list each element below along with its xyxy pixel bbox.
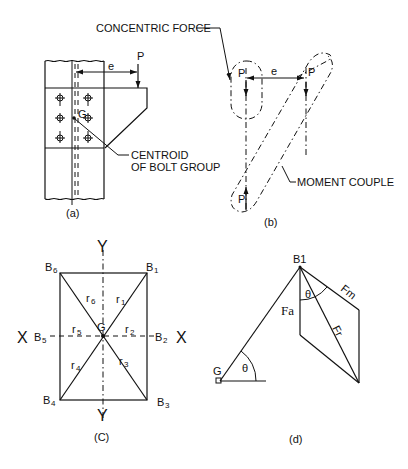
centroid-label: G <box>78 108 87 120</box>
centroid-dot-c <box>101 334 105 338</box>
centroid-callout-line1: CENTROID <box>131 149 189 161</box>
eccentricity-label-b: e <box>271 65 277 77</box>
caption-c: (C) <box>94 431 109 443</box>
force-label-right: P <box>308 66 315 78</box>
svg-text:6: 6 <box>91 297 96 306</box>
load-label: P <box>137 50 144 62</box>
bolt-label-b4: B4 <box>43 394 56 408</box>
eccentricity-label: e <box>108 60 114 72</box>
force-label-bottom: P <box>238 193 245 205</box>
svg-text:4: 4 <box>76 364 81 373</box>
angle-label-b1: θ <box>305 288 311 300</box>
svg-text:r: r <box>71 359 75 371</box>
bolt-label-b3: B3 <box>157 396 170 410</box>
panel-c: G Y Y X X B6 B1 B5 B2 B4 B3 r1 r2 r3 r4 … <box>17 238 187 443</box>
axis-x-right: X <box>176 329 187 346</box>
force-label-fr: Fr <box>330 323 346 338</box>
svg-text:r: r <box>116 293 120 305</box>
svg-text:3: 3 <box>165 401 170 410</box>
caption-b: (b) <box>264 216 277 228</box>
bolt-label-b1: B1 <box>146 261 159 275</box>
svg-text:B: B <box>34 331 41 343</box>
panel-d: G θ B1 θ Fa Fm Fr (d) <box>213 253 359 445</box>
concentric-force-leader <box>196 28 230 80</box>
bolt-hole-icon <box>55 113 65 123</box>
svg-text:5: 5 <box>77 328 82 337</box>
force-label-fm: Fm <box>339 282 359 301</box>
radius-label-r4: r4 <box>71 359 81 373</box>
svg-text:r: r <box>86 292 90 304</box>
radius-label-r3: r3 <box>119 355 129 369</box>
svg-text:B: B <box>157 396 164 408</box>
svg-text:r: r <box>125 323 129 335</box>
panel-a: G e P CENTROID OF BOLT GROUP (a) <box>45 50 220 219</box>
radius-label-r2: r2 <box>125 323 135 337</box>
angle-label-g: θ <box>242 362 248 374</box>
bolt-hole-icon <box>83 93 93 106</box>
moment-couple-leader <box>282 166 296 182</box>
svg-text:B: B <box>43 394 50 406</box>
centroid-leader <box>75 119 129 155</box>
caption-d: (d) <box>289 433 302 445</box>
svg-text:B: B <box>146 261 153 273</box>
radius-label-r6: r6 <box>86 292 96 306</box>
concentric-force-label: CONCENTRIC FORCE <box>96 22 211 34</box>
svg-text:5: 5 <box>42 336 47 345</box>
centroid-callout-line2: OF BOLT GROUP <box>131 161 220 173</box>
svg-text:2: 2 <box>163 336 168 345</box>
radius-label-r1: r1 <box>116 293 126 307</box>
bolt-label-b6: B6 <box>45 261 58 275</box>
radius-line-g-b1 <box>220 267 300 381</box>
bolt-hole-icon <box>55 131 65 143</box>
force-label-fa: Fa <box>281 303 294 318</box>
centroid-label-c: G <box>97 321 106 333</box>
svg-text:r: r <box>119 355 123 367</box>
axis-y-top: Y <box>97 238 108 255</box>
svg-text:B: B <box>155 331 162 343</box>
svg-text:1: 1 <box>121 298 126 307</box>
bolt-hole-icon <box>55 93 65 106</box>
bolt-label-b5: B5 <box>34 331 47 345</box>
bolt-label-b2: B2 <box>155 331 168 345</box>
radius-label-r5: r5 <box>72 323 82 337</box>
bolt-group-diagram: G e P CENTROID OF BOLT GROUP (a) CONCENT… <box>0 0 408 469</box>
force-label-left: P <box>238 67 245 79</box>
caption-a: (a) <box>66 207 79 219</box>
svg-text:6: 6 <box>53 266 58 275</box>
bolt-label-b1-d: B1 <box>293 253 306 265</box>
bracket-plate <box>104 88 147 148</box>
svg-text:4: 4 <box>51 399 56 408</box>
svg-text:3: 3 <box>124 360 129 369</box>
axis-y-bottom: Y <box>97 407 108 424</box>
svg-text:r: r <box>72 323 76 335</box>
svg-text:1: 1 <box>154 266 159 275</box>
svg-text:B: B <box>45 261 52 273</box>
moment-couple-label: MOMENT COUPLE <box>297 176 394 188</box>
centroid-label-d: G <box>213 365 222 377</box>
axis-x-left: X <box>17 329 28 346</box>
svg-text:2: 2 <box>130 328 135 337</box>
column <box>45 60 104 205</box>
